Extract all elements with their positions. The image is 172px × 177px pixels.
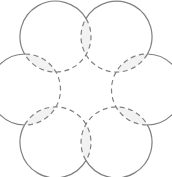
- petal-lower-left: [25, 107, 56, 125]
- circle-top-right-outer-solid-arc: [86, 1, 152, 54]
- circle-top-left-outer-solid-arc: [20, 1, 86, 54]
- petal-upper-right: [116, 54, 147, 72]
- petal-bottom: [81, 124, 91, 160]
- petal-lower-right: [116, 107, 147, 125]
- circle-bottom-right-outer-solid-arc: [86, 125, 152, 177]
- petal-top: [81, 18, 91, 54]
- circle-left-outer-solid-arc: [0, 54, 25, 125]
- circle-bottom-left-outer-solid-arc: [20, 125, 86, 177]
- rosette-diagram: Six-circle rosette Six equal circles cen…: [0, 0, 172, 177]
- rosette-figure-canvas: Six-circle rosette Six equal circles cen…: [0, 0, 172, 177]
- petal-fill-group: [25, 18, 148, 160]
- petal-upper-left: [25, 54, 56, 72]
- circle-right-outer-solid-arc: [147, 54, 172, 125]
